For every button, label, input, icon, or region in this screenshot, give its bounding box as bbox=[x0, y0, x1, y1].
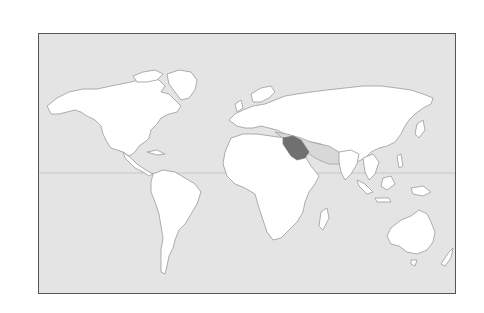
indonesia-borneo bbox=[381, 176, 395, 190]
philippines bbox=[397, 154, 403, 168]
cuba bbox=[147, 150, 165, 155]
scandinavia bbox=[251, 86, 275, 102]
madagascar bbox=[319, 208, 329, 230]
indonesia-sumatra bbox=[357, 180, 373, 194]
japan bbox=[415, 120, 425, 138]
world-map-frame bbox=[38, 33, 456, 294]
south-america bbox=[151, 170, 201, 274]
indonesia-java bbox=[375, 198, 391, 202]
southeast-asia bbox=[363, 154, 379, 180]
new-guinea bbox=[411, 186, 431, 196]
new-zealand bbox=[441, 248, 453, 266]
north-america bbox=[47, 78, 181, 156]
world-map bbox=[39, 34, 456, 294]
india bbox=[339, 150, 359, 180]
greenland bbox=[167, 70, 197, 100]
tasmania bbox=[411, 260, 417, 266]
australia bbox=[387, 210, 435, 254]
